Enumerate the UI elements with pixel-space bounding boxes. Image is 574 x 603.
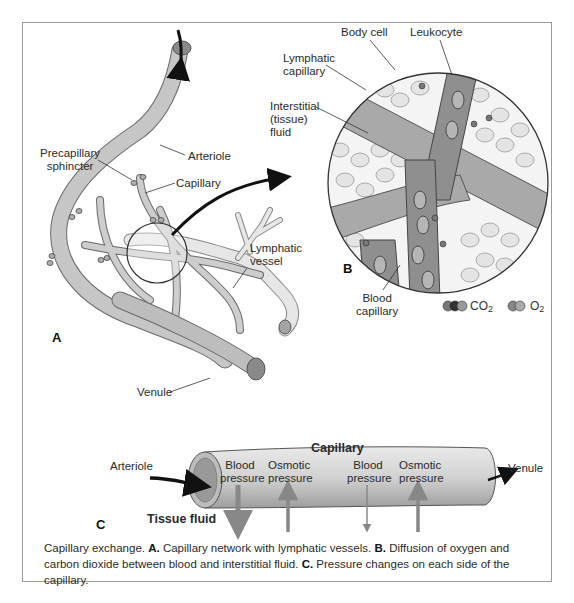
label-venule: Venule	[137, 386, 172, 399]
label-venule-c: Venule	[508, 462, 543, 475]
label-pressure-3: Blood pressure	[347, 459, 389, 485]
legend-o2-sub: 2	[539, 304, 544, 314]
caption-intro: Capillary exchange.	[44, 542, 148, 554]
label-line: Interstitial	[270, 100, 319, 113]
label-line: Osmotic	[399, 459, 441, 472]
label-line: Blood	[347, 459, 389, 472]
capillary-network-illustration	[47, 41, 293, 380]
label-pressure-2: Osmotic pressure	[268, 459, 310, 485]
label-blood-capillary: Blood capillary	[356, 292, 398, 318]
label-line: Precapillary	[40, 147, 100, 160]
label-pressure-1: Blood pressure	[220, 459, 260, 485]
label-line: pressure	[220, 472, 260, 485]
label-line: pressure	[268, 472, 310, 485]
label-line: (tissue)	[270, 113, 319, 126]
label-precapillary-sphincter: Precapillary sphincter	[40, 147, 100, 173]
panel-letter-b: B	[343, 261, 352, 276]
o2-molecule-icon	[508, 301, 525, 311]
caption-b-letter: B.	[374, 542, 386, 554]
caption-a-text: Capillary network with lymphatic vessels…	[160, 542, 375, 554]
label-interstitial-fluid: Interstitial (tissue) fluid	[270, 100, 319, 139]
label-line: fluid	[270, 126, 319, 139]
caption-c-letter: C.	[302, 558, 314, 570]
label-capillary-title: Capillary	[311, 442, 364, 455]
legend-o2: O2	[530, 299, 544, 314]
caption-a-letter: A.	[148, 542, 160, 554]
label-arteriole-c: Arteriole	[110, 460, 153, 473]
label-line: vessel	[250, 255, 302, 268]
label-line: pressure	[347, 472, 389, 485]
label-line: sphincter	[40, 160, 100, 173]
label-line: capillary	[283, 65, 335, 78]
legend-co2-text: CO	[470, 299, 488, 313]
label-line: Blood	[220, 459, 260, 472]
label-line: pressure	[399, 472, 441, 485]
label-line: Lymphatic	[283, 52, 335, 65]
co2-molecule-icon	[443, 301, 467, 311]
label-body-cell: Body cell	[341, 26, 388, 39]
label-leukocyte: Leukocyte	[410, 26, 462, 39]
panel-letter-c: C	[96, 517, 105, 532]
label-tissue-fluid: Tissue fluid	[147, 513, 216, 526]
figure-caption: Capillary exchange. A. Capillary network…	[44, 540, 544, 588]
legend-o2-text: O	[530, 299, 539, 313]
label-line: Osmotic	[268, 459, 310, 472]
label-line: capillary	[356, 305, 398, 318]
legend-co2-sub: 2	[488, 304, 493, 314]
label-line: Blood	[356, 292, 398, 305]
label-lymphatic-capillary: Lymphatic capillary	[283, 52, 335, 78]
legend-co2: CO2	[470, 299, 493, 314]
label-lymphatic-vessel: Lymphatic vessel	[250, 242, 302, 268]
label-capillary: Capillary	[176, 177, 221, 190]
label-pressure-4: Osmotic pressure	[399, 459, 441, 485]
panel-letter-a: A	[52, 330, 61, 345]
label-arteriole: Arteriole	[188, 150, 231, 163]
label-line: Lymphatic	[250, 242, 302, 255]
magnified-tissue-illustration	[320, 60, 560, 300]
